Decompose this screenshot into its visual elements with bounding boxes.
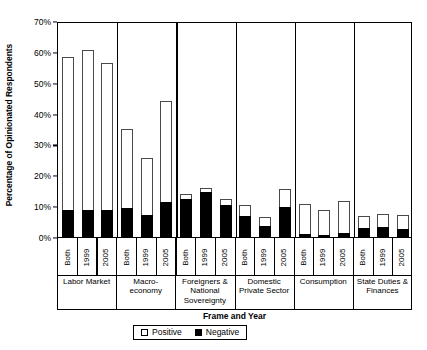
- x-axis-year-text: 1999: [319, 248, 328, 266]
- y-tick-label: 70%: [34, 17, 51, 27]
- group-separator: [236, 23, 237, 237]
- bar: [121, 129, 133, 237]
- x-axis-frame-text: Macro-economy: [130, 277, 162, 296]
- bar-segment-positive: [101, 63, 113, 210]
- bar-segment-negative: [200, 192, 212, 237]
- x-axis-frame-separator: [57, 276, 58, 310]
- x-axis-year-text: 1999: [82, 248, 91, 266]
- x-axis-cell-separator: [156, 238, 157, 276]
- bar-segment-positive: [160, 101, 172, 203]
- x-axis-year-label: 1999: [373, 238, 393, 276]
- x-axis-frame-label: Consumption: [294, 276, 353, 310]
- bar-segment-negative: [141, 215, 153, 237]
- x-axis-title: Frame and Year: [57, 311, 412, 321]
- bar: [259, 217, 271, 237]
- x-axis-cell-separator: [96, 238, 97, 276]
- x-axis-cell-separator: [274, 238, 275, 276]
- y-tick-label: 20%: [34, 171, 51, 181]
- bar-segment-positive: [358, 216, 370, 228]
- x-axis-year-text: 2005: [161, 248, 170, 266]
- bar-segment-negative: [358, 228, 370, 237]
- bar-segment-positive: [141, 158, 153, 215]
- bar: [62, 57, 74, 238]
- bar-segment-negative: [279, 207, 291, 237]
- bar: [200, 188, 212, 237]
- x-axis-cell-separator: [294, 238, 295, 276]
- bar: [220, 199, 232, 237]
- y-tick-label: 10%: [34, 202, 51, 212]
- x-axis-year-label: 2005: [274, 238, 294, 276]
- bar-segment-negative: [101, 210, 113, 237]
- bar-segment-negative: [62, 210, 74, 237]
- bar-segment-negative: [180, 199, 192, 237]
- x-axis-year-text: Both: [62, 249, 71, 265]
- x-axis-cell-separator: [254, 238, 255, 276]
- group-separator: [176, 23, 177, 237]
- x-axis-year-label: 2005: [392, 238, 412, 276]
- group-separator: [295, 23, 296, 237]
- x-axis-frame-text: DomesticPrivate Sector: [239, 277, 289, 296]
- bar: [160, 101, 172, 237]
- bar: [397, 215, 409, 237]
- bar-segment-positive: [299, 204, 311, 234]
- bar-segment-positive: [259, 217, 271, 226]
- x-axis-cell-separator: [57, 238, 58, 276]
- bar-segment-positive: [239, 205, 251, 216]
- bar: [338, 201, 350, 237]
- bar-segment-negative: [377, 227, 389, 237]
- bar: [358, 216, 370, 237]
- x-axis-cell-separator: [313, 238, 314, 276]
- x-axis-year-label: Both: [116, 238, 136, 276]
- y-axis-title: Percentage of Opinionated Respondents: [0, 0, 18, 250]
- bar: [279, 189, 291, 237]
- bar-segment-positive: [377, 214, 389, 227]
- x-axis-year-text: 1999: [141, 248, 150, 266]
- legend-item-positive: Positive: [141, 327, 182, 337]
- bar-segment-negative: [299, 234, 311, 237]
- x-axis-cell-separator: [136, 238, 137, 276]
- y-tick-label: 30%: [34, 140, 51, 150]
- bar-segment-negative: [160, 202, 172, 237]
- group-separator: [117, 23, 118, 237]
- bar-segment-negative: [121, 208, 133, 237]
- y-tick-label: 40%: [34, 110, 51, 120]
- x-axis-frame-separator: [294, 276, 295, 310]
- bar: [82, 50, 94, 237]
- bar: [180, 194, 192, 237]
- x-axis-year-label: 2005: [215, 238, 235, 276]
- x-axis-frame-label: State Duties &Finances: [353, 276, 412, 310]
- bar-segment-positive: [62, 57, 74, 210]
- x-axis-year-text: 1999: [260, 248, 269, 266]
- x-axis-frame-label: Labor Market: [57, 276, 116, 310]
- y-tick-label: 50%: [34, 79, 51, 89]
- x-axis-frame-text: Foreigners &NationalSovereignty: [182, 277, 228, 305]
- x-axis-frame-text: State Duties &Finances: [357, 277, 408, 296]
- x-axis-year-row: Both19992005Both19992005Both19992005Both…: [57, 238, 412, 276]
- x-axis-cell-separator: [195, 238, 196, 276]
- x-axis-year-text: Both: [122, 249, 131, 265]
- bar-segment-positive: [82, 50, 94, 210]
- x-axis-year-label: 1999: [136, 238, 156, 276]
- chart-legend: Positive Negative: [133, 325, 247, 340]
- x-axis-year-label: 2005: [333, 238, 353, 276]
- bar: [101, 63, 113, 237]
- group-separator: [354, 23, 355, 237]
- x-axis-year-label: Both: [353, 238, 373, 276]
- x-axis-frame-separator: [353, 276, 354, 310]
- bar-segment-positive: [397, 215, 409, 229]
- x-axis-cell-separator: [392, 238, 393, 276]
- x-axis-year-label: 1999: [77, 238, 97, 276]
- legend-item-negative: Negative: [195, 327, 240, 337]
- x-axis-cell-separator: [77, 238, 78, 276]
- x-axis-year-text: Both: [299, 249, 308, 265]
- bar-segment-negative: [220, 205, 232, 237]
- legend-label-positive: Positive: [152, 327, 182, 337]
- x-axis-cell-separator: [215, 238, 216, 276]
- x-axis-year-label: 1999: [195, 238, 215, 276]
- bar-segment-positive: [338, 201, 350, 234]
- bar-segment-positive: [279, 189, 291, 207]
- x-axis-year-label: Both: [294, 238, 314, 276]
- x-axis-cell-separator: [411, 238, 412, 276]
- x-axis-frame-separator: [235, 276, 236, 310]
- bar-segment-negative: [259, 226, 271, 237]
